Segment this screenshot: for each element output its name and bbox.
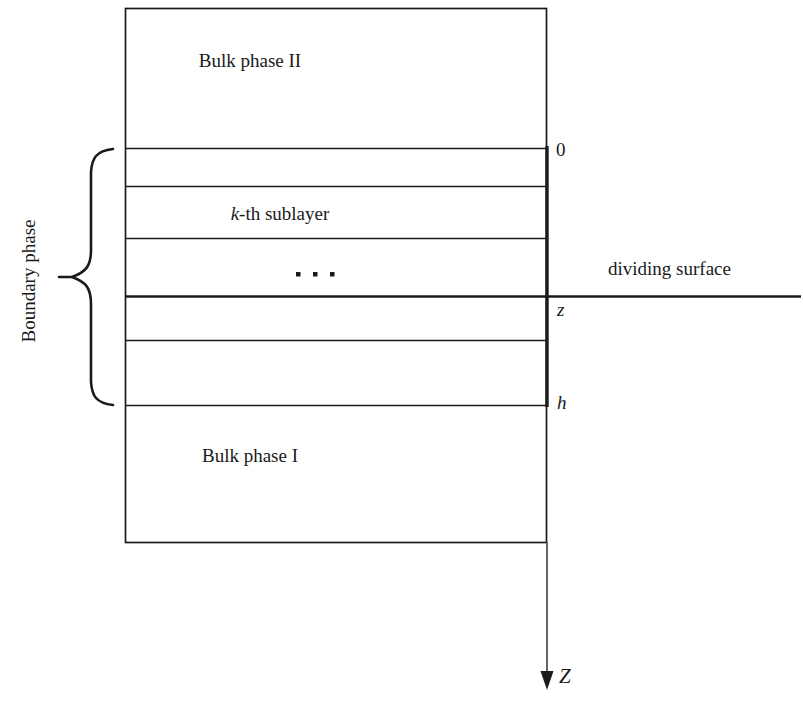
sublayer-label-text: -th sublayer xyxy=(239,203,329,224)
axis-tick-label-z: z xyxy=(557,299,564,321)
diagram-canvas: Bulk phase II k-th sublayer Bulk phase I… xyxy=(0,0,803,706)
bulk-phase-upper-label: Bulk phase II xyxy=(125,50,375,72)
axis-tick-label-h: h xyxy=(557,392,567,414)
ellipsis-dot-2 xyxy=(313,272,318,277)
ellipsis-dot-1 xyxy=(296,272,301,277)
bulk-phase-lower-label: Bulk phase I xyxy=(125,445,375,467)
z-axis-label: Z xyxy=(559,664,571,689)
ellipsis-dot-3 xyxy=(330,272,335,277)
boundary-phase-brace xyxy=(72,149,113,405)
axis-tick-label-0: 0 xyxy=(556,139,566,161)
boundary-phase-label: Boundary phase xyxy=(18,186,40,376)
k-th-sublayer-label: k-th sublayer xyxy=(185,203,375,225)
sublayer-index-symbol: k xyxy=(231,203,239,224)
diagram-vector-layer xyxy=(0,0,803,706)
z-axis-arrowhead xyxy=(541,671,554,690)
dividing-surface-label: dividing surface xyxy=(608,258,731,280)
